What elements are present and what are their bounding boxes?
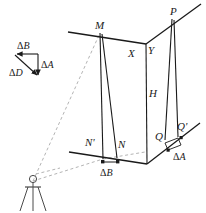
label-point-Qprime: Q' bbox=[177, 120, 188, 132]
sight-line-to-base bbox=[33, 159, 103, 181]
measurement-deltaB-ground: ΔB bbox=[100, 160, 119, 178]
figure-canvas: ΔB ΔA ΔD bbox=[0, 0, 206, 213]
tripod-leg-right bbox=[38, 187, 46, 211]
label-point-N: N bbox=[117, 138, 126, 150]
label-point-X: X bbox=[127, 47, 136, 59]
deltaB-dot-left bbox=[101, 160, 104, 163]
eave-line-left bbox=[68, 32, 146, 44]
deltaA-ground-label: ΔA bbox=[173, 151, 186, 162]
label-point-Y: Y bbox=[148, 44, 156, 56]
deltaA-dot-right bbox=[180, 136, 183, 139]
measurement-deltaA-ground: ΔA bbox=[165, 136, 186, 162]
vector-label-deltaD: ΔD bbox=[9, 67, 23, 78]
sight-line-upper-stub bbox=[36, 168, 60, 174]
label-point-H: H bbox=[148, 87, 158, 99]
facade-edge-M-to-Nprime bbox=[100, 33, 103, 159]
surveying-figure: ΔB ΔA ΔD bbox=[0, 0, 206, 213]
facade-edge-P-to-Q bbox=[165, 19, 172, 140]
vector-label-deltaA: ΔA bbox=[41, 59, 54, 70]
label-point-P: P bbox=[169, 5, 177, 17]
label-point-M: M bbox=[94, 19, 105, 31]
sight-line-to-M bbox=[33, 33, 100, 181]
deltaB-ground-label: ΔB bbox=[100, 167, 113, 178]
facade-edge-M-to-N bbox=[102, 34, 117, 158]
label-point-Q: Q bbox=[155, 130, 163, 142]
deltaA-dot-left bbox=[167, 149, 170, 152]
deltaB-dot-right bbox=[116, 160, 119, 163]
tripod-leg-left bbox=[20, 187, 28, 211]
error-vector-triangle: ΔB ΔA ΔD bbox=[9, 40, 54, 78]
building-corner-edge bbox=[146, 44, 147, 164]
theodolite-head bbox=[29, 175, 36, 182]
vector-label-deltaB: ΔB bbox=[17, 40, 30, 51]
label-point-Nprime: N' bbox=[84, 136, 95, 148]
